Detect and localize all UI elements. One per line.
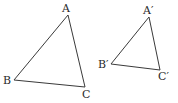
vertex-label-c-prime: C′ — [158, 70, 169, 83]
vertex-label-b-prime: B′ — [98, 58, 109, 71]
vertex-label-a-prime: A′ — [142, 4, 154, 17]
triangle-a-prime-b-prime-c-prime: A′ B′ C′ — [98, 4, 169, 83]
vertex-label-b: B — [3, 74, 11, 87]
triangle-abc: A B C — [3, 2, 90, 101]
triangle-abc-outline — [14, 15, 85, 87]
vertex-label-c: C — [82, 88, 90, 101]
vertex-label-a: A — [61, 2, 71, 15]
similar-triangles-figure: A B C A′ B′ C′ — [0, 0, 178, 103]
triangle-a-prime-b-prime-c-prime-outline — [111, 17, 160, 70]
